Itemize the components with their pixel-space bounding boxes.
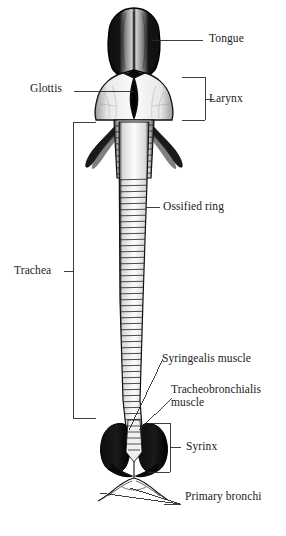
syrinx-structure — [101, 420, 168, 478]
label-syrinx: Syrinx — [186, 440, 217, 453]
trachea-structure — [112, 120, 156, 428]
label-syringealis-muscle: Syringealis muscle — [162, 352, 251, 365]
label-glottis: Glottis — [30, 82, 62, 95]
label-tracheobronchialis-muscle: Tracheobronchialis muscle — [171, 383, 283, 409]
anatomical-figure: Tongue Glottis Larynx Ossified ring Trac… — [0, 0, 286, 536]
label-ossified-ring: Ossified ring — [163, 200, 224, 213]
label-larynx: Larynx — [209, 92, 243, 105]
label-primary-bronchi: Primary bronchi — [185, 490, 265, 503]
larynx-structure — [95, 73, 173, 120]
label-trachea: Trachea — [14, 264, 51, 277]
label-tongue: Tongue — [209, 32, 244, 45]
bracket-trachea — [64, 122, 96, 418]
leader-bronchi-left — [100, 493, 180, 504]
tongue-structure — [108, 8, 160, 79]
